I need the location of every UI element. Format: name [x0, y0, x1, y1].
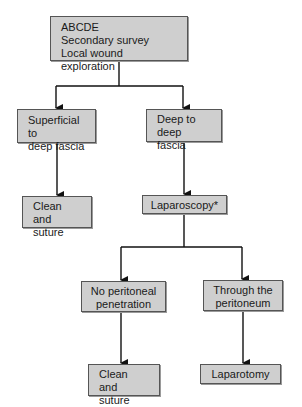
node-line: penetration [86, 298, 161, 311]
node-line: Deep to [157, 113, 211, 126]
node-through-peritoneum: Through the peritoneum [203, 280, 283, 311]
node-line: suture [99, 394, 149, 407]
node-line: Clean and [33, 200, 81, 226]
node-line: Through the [208, 284, 278, 297]
node-start: ABCDE Secondary survey Local wound explo… [50, 16, 188, 61]
node-line: deep fascia [157, 126, 211, 152]
node-line: ABCDE [61, 21, 177, 34]
node-clean-suture-2: Clean and suture [88, 364, 160, 396]
node-laparoscopy: Laparoscopy* [142, 195, 227, 214]
node-line: peritoneum [208, 297, 278, 310]
node-line: deep fascia [28, 140, 85, 153]
node-line: Laparotomy [205, 368, 276, 381]
node-no-peritoneal-penetration: No peritoneal penetration [81, 281, 166, 312]
node-clean-suture-1: Clean and suture [22, 196, 92, 228]
node-superficial: Superficial to deep fascia [17, 109, 96, 143]
node-line: Clean and [99, 368, 149, 394]
node-line: Laparoscopy* [147, 199, 222, 212]
node-line: suture [33, 226, 81, 239]
node-line: Local wound exploration [61, 47, 177, 73]
node-line: Secondary survey [61, 34, 177, 47]
node-deep: Deep to deep fascia [146, 109, 222, 142]
node-line: No peritoneal [86, 285, 161, 298]
node-laparotomy: Laparotomy [200, 364, 281, 384]
node-line: Superficial to [28, 114, 85, 140]
